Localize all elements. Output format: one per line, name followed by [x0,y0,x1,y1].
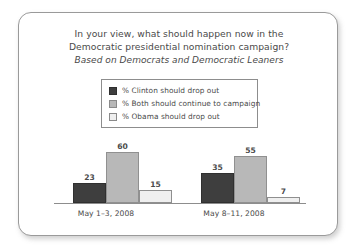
bar-item: 55 [234,146,267,204]
chart-title-line-2: Democratic presidential nomination campa… [19,41,339,54]
legend-label-both: % Both should continue to campaign [122,99,260,108]
chart-plot-area: 23 60 15 35 55 [54,133,306,203]
bar-rect [106,152,139,203]
x-axis-label-may-1-3: May 1–3, 2008 [51,209,161,218]
chart-baseline-axis [54,203,306,204]
legend-label-clinton: % Clinton should drop out [122,86,219,95]
legend-item-clinton: % Clinton should drop out [109,84,251,97]
chart-card: In your view, what should happen now in … [18,12,338,236]
bar-rect [201,173,234,203]
legend-label-obama: % Obama should drop out [122,112,220,121]
bar-item: 35 [201,163,234,204]
bar-item: 60 [106,142,139,204]
bar-value-label: 15 [150,180,161,189]
bar-group-may-8-11: 35 55 7 [201,133,300,203]
x-axis-label-may-8-11: May 8–11, 2008 [179,209,289,218]
bar-item: 15 [139,180,172,204]
bar-value-label: 7 [281,187,286,196]
legend-item-both: % Both should continue to campaign [109,97,251,110]
bar-group-may-1-3: 23 60 15 [73,133,172,203]
bar-rect [139,190,172,203]
screenshot-root: In your view, what should happen now in … [0,0,356,249]
chart-legend: % Clinton should drop out % Both should … [101,79,258,128]
bar-value-label: 60 [117,142,128,151]
legend-swatch-icon-obama [109,113,117,121]
bar-value-label: 35 [212,163,223,172]
bar-item: 23 [73,173,106,204]
legend-item-obama: % Obama should drop out [109,110,251,123]
legend-swatch-icon-clinton [109,87,117,95]
bar-value-label: 23 [84,173,95,182]
chart-title-line-1: In your view, what should happen now in … [19,28,339,41]
bar-rect [234,156,267,203]
bar-item: 7 [267,187,300,204]
chart-x-axis-labels: May 1–3, 2008 May 8–11, 2008 [54,209,306,223]
bar-rect [73,183,106,203]
chart-subtitle: Based on Democrats and Democratic Leaner… [19,53,339,67]
chart-header: In your view, what should happen now in … [19,28,339,67]
bar-value-label: 55 [245,146,256,155]
legend-swatch-icon-both [109,100,117,108]
bar-rect [267,197,300,203]
